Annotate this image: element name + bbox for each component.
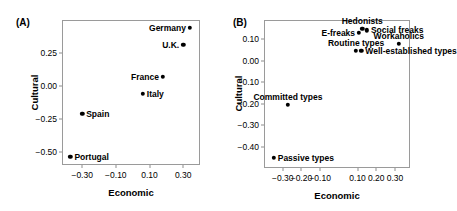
data-point-label: Hedonists: [342, 16, 383, 26]
x-tick-mark: [376, 168, 377, 171]
x-tick-label: −0.10: [105, 170, 127, 180]
x-tick-label: 0.10: [141, 170, 158, 180]
x-tick-label: −0.10: [309, 173, 331, 183]
panel-b-tag: (B): [233, 17, 247, 28]
panel-a: (A) Cultural Economic 0.250.00−0.25−0.50…: [0, 0, 228, 211]
panel-a-y-axis-label: Cultural: [29, 72, 40, 112]
x-tick-label: 0.30: [387, 173, 404, 183]
x-tick-mark: [320, 168, 321, 171]
panel-a-x-axis-label: Economic: [81, 187, 181, 198]
data-point-label: E-freaks: [322, 28, 356, 38]
y-tick-mark: [261, 103, 264, 104]
y-tick-mark: [261, 82, 264, 83]
y-tick-label: −0.30: [228, 120, 259, 130]
data-point-label: Germany: [149, 23, 186, 33]
y-tick-label: −0.50: [26, 147, 57, 157]
y-tick-label: −0.25: [26, 114, 57, 124]
panel-b-x-axis-label: Economic: [287, 190, 387, 201]
y-tick-label: 0.00: [26, 81, 57, 91]
x-tick-mark: [115, 165, 116, 168]
y-tick-mark: [261, 125, 264, 126]
panel-b: (B) Cultural Economic 0.100.00−0.10−0.20…: [228, 0, 456, 211]
data-point-label: Italy: [147, 89, 164, 99]
y-tick-mark: [261, 39, 264, 40]
x-tick-label: 0.30: [175, 170, 192, 180]
y-tick-mark: [261, 146, 264, 147]
y-tick-mark: [59, 85, 62, 86]
data-point-label: Portugal: [74, 152, 108, 162]
data-point-label: France: [131, 72, 159, 82]
x-tick-label: 0.20: [368, 173, 385, 183]
data-point-label: Passive types: [278, 153, 334, 163]
y-tick-label: 0.10: [228, 34, 259, 44]
x-tick-mark: [82, 165, 83, 168]
data-point-label: Routine types: [328, 38, 384, 48]
panel-a-tag: (A): [16, 17, 30, 28]
x-tick-mark: [301, 168, 302, 171]
y-tick-label: −0.40: [228, 142, 259, 152]
panel-a-plot-frame: [62, 20, 200, 165]
y-tick-mark: [261, 60, 264, 61]
x-tick-label: −0.30: [71, 170, 93, 180]
x-tick-mark: [282, 168, 283, 171]
y-tick-label: −0.10: [228, 77, 259, 87]
y-tick-mark: [59, 118, 62, 119]
data-point-label: U.K.: [162, 40, 179, 50]
x-tick-mark: [149, 165, 150, 168]
x-tick-mark: [357, 168, 358, 171]
y-tick-mark: [59, 151, 62, 152]
data-point-label: Committed types: [253, 92, 322, 102]
y-tick-mark: [59, 52, 62, 53]
y-tick-label: 0.25: [26, 48, 57, 58]
y-tick-label: 0.00: [228, 56, 259, 66]
x-tick-mark: [395, 168, 396, 171]
data-point-label: Spain: [86, 109, 109, 119]
x-tick-mark: [183, 165, 184, 168]
x-tick-label: 0.10: [349, 173, 366, 183]
